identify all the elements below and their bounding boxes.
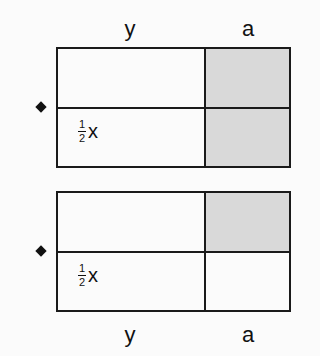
numerator: 1: [79, 119, 85, 130]
half-x-label: 12 x: [78, 119, 98, 144]
bottom-label-a: a: [242, 324, 254, 346]
diamond-marker-1: [35, 101, 46, 112]
bottom-label-y: y: [125, 324, 136, 346]
shaded-region: [206, 193, 289, 251]
diagram-1: 12 x: [56, 47, 291, 168]
variable: x: [88, 264, 98, 287]
horizontal-divider: [58, 251, 289, 253]
diagram-2: 12 x: [56, 191, 291, 312]
numerator: 1: [79, 263, 85, 274]
horizontal-divider: [58, 107, 289, 109]
variable: x: [88, 120, 98, 143]
top-label-y: y: [125, 18, 136, 40]
denominator: 2: [79, 277, 85, 288]
half-x-label: 12 x: [78, 263, 98, 288]
top-label-a: a: [242, 18, 254, 40]
denominator: 2: [79, 133, 85, 144]
diamond-marker-2: [35, 245, 46, 256]
